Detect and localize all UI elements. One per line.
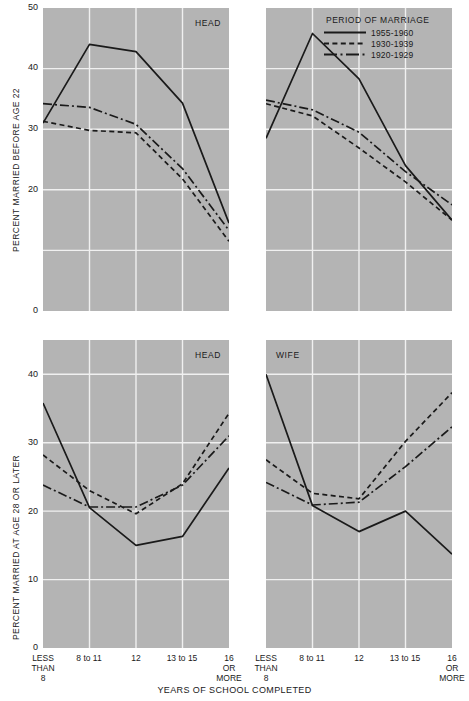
xtick-right-less-than-8: LESS THAN 8 (244, 653, 288, 683)
legend-label-1955-1960: 1955-1960 (371, 28, 413, 38)
chart-legend: PERIOD OF MARRIAGE 1955-1960 1930-1939 1… (324, 15, 429, 60)
ytick-bottom-40: 40 (8, 369, 38, 379)
gridlines-top-left (43, 8, 229, 311)
ytick-top-30: 30 (8, 123, 38, 133)
panel-label-bottom-left: HEAD (195, 350, 221, 360)
xtick-left-12: 12 (114, 653, 158, 663)
gridlines-bottom-right (266, 340, 452, 648)
xtick-right-12: 12 (337, 653, 381, 663)
legend-swatch-solid (324, 28, 366, 37)
legend-row-1920-1929: 1920-1929 (324, 49, 429, 60)
panel-top-right-wife: PERIOD OF MARRIAGE 1955-1960 1930-1939 1… (266, 8, 452, 311)
xtick-left-less-than-8: LESS THAN 8 (21, 653, 65, 683)
ytick-bottom-10: 10 (8, 574, 38, 584)
panel-bottom-right-wife: WIFE (266, 340, 452, 648)
ytick-bottom-20: 20 (8, 506, 38, 516)
x-axis-title: YEARS OF SCHOOL COMPLETED (0, 685, 469, 695)
gridlines-bottom-left (43, 340, 229, 648)
xtick-left-13-to-15: 13 to 15 (160, 653, 204, 663)
panel-top-left-head: HEAD (43, 8, 229, 311)
chart-figure: PERCENT MARRIED BEFORE AGE 22 PERCENT MA… (0, 0, 469, 701)
legend-title: PERIOD OF MARRIAGE (324, 15, 429, 25)
bottom-y-axis-title: PERCENT MARRIED AT AGE 28 OR LATER (11, 455, 21, 640)
ytick-bottom-0: 0 (8, 642, 38, 652)
panel-bottom-right-plot (266, 340, 452, 648)
panel-bottom-left-head: HEAD (43, 340, 229, 648)
xtick-right-8-to-11: 8 to 11 (290, 653, 334, 663)
ytick-top-20: 20 (8, 184, 38, 194)
xtick-left-8-to-11: 8 to 11 (67, 653, 111, 663)
xtick-right-16-or-more: 16 OR MORE (430, 653, 469, 683)
panel-bottom-left-plot (43, 340, 229, 648)
xtick-right-13-to-15: 13 to 15 (383, 653, 427, 663)
legend-row-1930-1939: 1930-1939 (324, 38, 429, 49)
legend-swatch-dashdot (324, 50, 366, 59)
legend-row-1955-1960: 1955-1960 (324, 27, 429, 38)
legend-label-1930-1939: 1930-1939 (371, 39, 413, 49)
legend-label-1920-1929: 1920-1929 (371, 50, 413, 60)
top-y-axis-title: PERCENT MARRIED BEFORE AGE 22 (11, 88, 21, 252)
ytick-bottom-30: 30 (8, 437, 38, 447)
ytick-top-0: 0 (8, 305, 38, 315)
ytick-top-50: 50 (8, 2, 38, 12)
panel-label-bottom-right: WIFE (276, 350, 300, 360)
panel-label-top-left: HEAD (195, 18, 221, 28)
ytick-top-40: 40 (8, 62, 38, 72)
panel-top-left-plot (43, 8, 229, 311)
legend-swatch-dashed (324, 39, 366, 48)
